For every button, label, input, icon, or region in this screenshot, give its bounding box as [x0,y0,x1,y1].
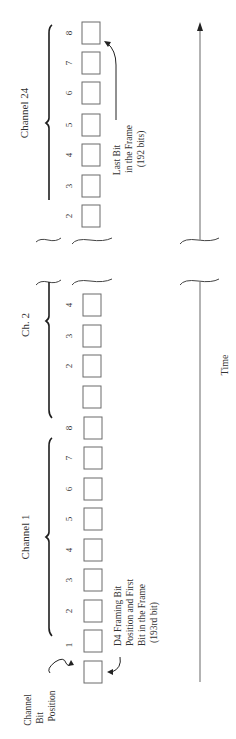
cbp-line1: Channel [23,694,33,726]
bit-box [84,539,102,561]
bit-box [82,22,100,44]
channel-1-brace [46,438,52,636]
bit-box [84,508,102,530]
bit-number: 1 [64,643,74,648]
last-bit-line3: (192 bits) [136,131,147,168]
bit-box [82,144,100,166]
arrowhead-icon [68,660,74,666]
time-axis: Time [197,22,230,682]
channel-2-group: Ch. 2 2 3 4 [19,282,101,418]
bit-box [82,82,100,104]
bit-number: 4 [64,302,74,307]
bit-number: 5 [64,516,74,521]
bit-number: 6 [64,486,74,491]
t1-frame-diagram: Channel 24 2 3 4 5 6 7 8 Last Bit in the… [0,0,236,739]
framing-line1: D4 Framing Bit [113,585,123,646]
bit-number: 4 [64,152,74,157]
channel-1-group: Channel 1 1 2 3 4 5 6 7 8 [19,417,102,652]
bit-box [83,355,101,377]
bit-number: 6 [64,90,74,95]
channel-24-group: Channel 24 2 3 4 5 6 7 8 [18,22,100,227]
break-marks [36,238,219,285]
framing-line2: Position and First [125,579,135,646]
bit-box [84,417,102,439]
bit-number: 3 [64,577,74,582]
bit-number: 7 [64,455,74,460]
bit-number: 2 [64,609,74,614]
channel-1-label: Channel 1 [19,515,31,560]
bit-box [82,114,100,136]
bit-box [82,175,100,197]
last-bit-line2: in the Frame [124,125,134,173]
last-bit-line1: Last Bit [112,144,122,175]
bit-box [84,478,102,500]
bit-number: 8 [64,425,74,430]
bit-number: 7 [64,60,74,65]
last-bit-annotation: Last Bit in the Frame (192 bits) [104,41,147,175]
cbp-line2: Bit [35,712,45,724]
channel-bit-position-annotation: Channel Bit Position [23,659,74,726]
time-label: Time [219,354,230,375]
framing-arrow [112,657,120,672]
channel-2-label: Ch. 2 [19,313,31,337]
framing-line3: Bit in the Frame [137,584,147,646]
framing-bit-annotation: D4 Framing Bit Position and First Bit in… [107,579,160,675]
framing-line4: (193rd bit) [149,602,160,643]
channel-24-brace [46,25,52,200]
bit-box [83,386,101,408]
bit-box [82,205,100,227]
cbp-arrow [49,659,71,673]
arrowhead-icon [107,669,113,675]
bit-number: 2 [64,364,74,369]
bit-number: 8 [64,30,74,35]
bit-box [83,325,101,347]
bit-box [84,630,102,652]
bit-box [84,600,102,622]
last-bit-arrow [107,43,116,120]
bit-box [82,52,100,74]
channel-2-brace [46,282,52,418]
cbp-line3: Position [47,690,57,721]
time-arrowhead-icon [197,22,203,31]
bit-number: 2 [64,214,74,219]
channel-24-label: Channel 24 [18,87,30,138]
bit-number: 3 [64,183,74,188]
bit-number: 4 [64,547,74,552]
bit-box [84,447,102,469]
framing-bit-box [84,661,102,683]
bit-box [83,294,101,316]
bit-box [84,569,102,591]
bit-number: 5 [64,122,74,127]
bit-number: 3 [64,333,74,338]
